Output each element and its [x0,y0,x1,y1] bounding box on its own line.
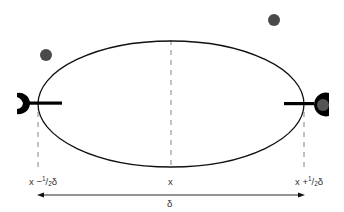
right-bound-prefix: x + [295,176,308,187]
delta-span-arrow [37,193,305,198]
right-bound-numerator: 1 [308,175,312,182]
left-bound-delta: δ [52,176,57,187]
right-detector-icon [284,93,329,117]
left-bound-label: x −1/2δ [29,177,57,187]
particle-top-right [268,14,280,26]
right-bound-label: x +1/2δ [295,177,323,187]
left-bound-prefix: x − [29,176,42,187]
left-bound-numerator: 1 [42,175,46,182]
center-x: x [168,176,173,187]
right-bound-delta: δ [318,176,323,187]
left-bound-denominator: 2 [48,180,52,187]
center-label: x [168,177,173,187]
particle-left [40,49,52,61]
right-bound-denominator: 2 [314,180,318,187]
delta-span-label: δ [167,199,172,209]
particle-in-detector [317,99,329,111]
delta-symbol: δ [167,198,172,209]
